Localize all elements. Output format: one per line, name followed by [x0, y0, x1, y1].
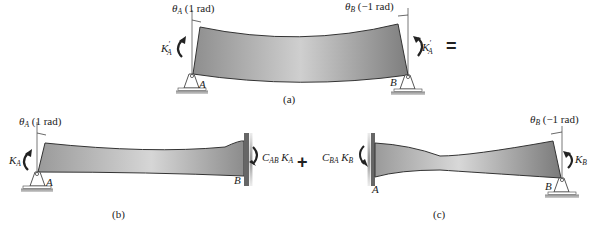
theta-b-label: θB (−1 rad): [345, 0, 394, 14]
support-label-b: B: [390, 76, 397, 88]
deformed-beam-b: [38, 141, 244, 176]
wall-shading: [249, 133, 253, 186]
plus-sign: +: [297, 152, 308, 172]
support-label-a: A: [45, 176, 53, 188]
angle-mark-a: [37, 133, 46, 135]
panel-c: θB (−1 rad) CBA KB KB A B (c): [322, 113, 587, 221]
angle-mark-a: [192, 20, 201, 22]
deformed-beam-a: [193, 24, 408, 82]
fixed-wall-a: [371, 133, 375, 186]
caption-c: (c): [433, 208, 446, 221]
support-label-b: B: [234, 174, 241, 186]
equals-sign: =: [446, 36, 457, 56]
moment-label-right: K′A: [421, 39, 433, 56]
panel-b: θA (1 rad) KA CAB KA A B (b): [8, 115, 294, 221]
deformed-beam-c: [375, 141, 561, 178]
support-label-a: A: [198, 78, 206, 90]
moment-arrow-left: [24, 153, 28, 170]
moment-arrow-right: [253, 147, 257, 164]
carryover-moment-label: CAB KA: [262, 151, 294, 165]
theta-b-label: θB (−1 rad): [530, 113, 579, 127]
support-label-a: A: [371, 183, 379, 195]
angle-mark-b: [551, 132, 562, 134]
support-label-b: B: [545, 180, 552, 192]
theta-a-label: θA (1 rad): [172, 2, 215, 16]
moment-label-right: KB: [574, 153, 587, 167]
panel-a: θA (1 rad) θB (−1 rad) K′A K′A A B = (a): [160, 0, 457, 106]
moment-arrow-left: [178, 40, 182, 57]
theta-a-label: θA (1 rad): [19, 115, 62, 129]
moment-label-left: K′A: [160, 40, 172, 57]
caption-b: (b): [112, 208, 125, 221]
fixed-wall-b: [244, 133, 249, 186]
moment-label-left: KA: [8, 154, 21, 168]
carryover-moment-label: CBA KB: [322, 151, 354, 165]
caption-a: (a): [283, 93, 296, 106]
diagram-canvas: θA (1 rad) θB (−1 rad) K′A K′A A B = (a)…: [0, 0, 598, 225]
angle-mark-b: [398, 15, 408, 16]
wall-shading: [367, 133, 371, 186]
